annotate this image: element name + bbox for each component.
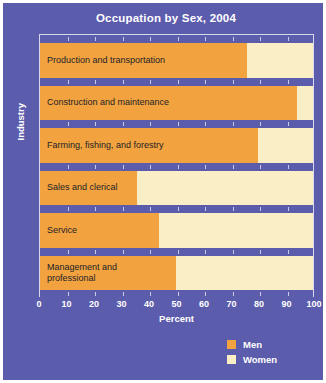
bar-segment-women[interactable]: [159, 213, 313, 248]
x-tick-label: 40: [144, 299, 154, 309]
x-tick-label: 80: [254, 299, 264, 309]
x-tick-mark: [178, 207, 179, 211]
x-tick-label: 30: [116, 299, 126, 309]
bar-segment-men[interactable]: [40, 213, 161, 248]
x-tick-mark: [178, 250, 179, 254]
row-separator-band: [40, 35, 313, 43]
x-tick-mark: [150, 165, 151, 169]
x-tick-mark: [68, 207, 69, 211]
x-tick-mark: [233, 122, 234, 126]
x-tick-mark: [233, 250, 234, 254]
bar-row[interactable]: Management and professional: [40, 256, 313, 291]
plot-area: Production and transportationConstructio…: [39, 34, 314, 297]
x-tick-label: 20: [89, 299, 99, 309]
x-tick-mark: [205, 292, 206, 296]
bar-row[interactable]: Sales and clerical: [40, 171, 313, 206]
bar-segment-women[interactable]: [176, 256, 314, 291]
x-tick-label: 10: [61, 299, 71, 309]
x-tick-mark: [288, 250, 289, 254]
chart-legend: MenWomen: [227, 337, 305, 367]
bar-segment-men[interactable]: [40, 43, 249, 78]
x-tick-mark: [260, 250, 261, 254]
x-tick-mark: [150, 37, 151, 41]
x-tick-mark: [233, 165, 234, 169]
x-tick-mark: [123, 207, 124, 211]
x-tick-mark: [288, 37, 289, 41]
x-tick-label: 0: [36, 299, 41, 309]
x-tick-mark: [68, 80, 69, 84]
x-tick-mark: [205, 122, 206, 126]
x-tick-mark: [288, 165, 289, 169]
bar-segment-women[interactable]: [297, 86, 314, 121]
x-tick-mark: [123, 165, 124, 169]
legend-item[interactable]: Women: [227, 352, 305, 367]
row-separator-band: [40, 163, 313, 171]
x-tick-mark: [150, 207, 151, 211]
x-tick-mark: [95, 122, 96, 126]
x-tick-mark: [150, 292, 151, 296]
legend-label: Men: [243, 339, 262, 350]
x-tick-mark: [205, 80, 206, 84]
x-tick-label: 100: [306, 299, 321, 309]
x-tick-mark: [123, 250, 124, 254]
x-tick-mark: [123, 37, 124, 41]
row-separator-band: [40, 290, 313, 298]
x-tick-mark: [288, 80, 289, 84]
x-tick-mark: [150, 250, 151, 254]
bar-segment-men[interactable]: [40, 171, 139, 206]
x-tick-mark: [288, 207, 289, 211]
x-tick-mark: [288, 292, 289, 296]
chart-title: Occupation by Sex, 2004: [3, 12, 326, 24]
x-tick-mark: [233, 80, 234, 84]
x-tick-mark: [205, 165, 206, 169]
x-tick-mark: [68, 122, 69, 126]
x-tick-mark: [205, 37, 206, 41]
x-tick-mark: [123, 122, 124, 126]
bar-row[interactable]: Production and transportation: [40, 43, 313, 78]
x-tick-mark: [260, 207, 261, 211]
bar-row[interactable]: Farming, fishing, and forestry: [40, 128, 313, 163]
legend-swatch-women: [227, 355, 236, 364]
x-tick-mark: [150, 80, 151, 84]
x-tick-label: 60: [199, 299, 209, 309]
x-tick-mark: [123, 292, 124, 296]
x-tick-label: 90: [281, 299, 291, 309]
x-tick-mark: [95, 37, 96, 41]
bar-row[interactable]: Construction and maintenance: [40, 86, 313, 121]
bar-segment-women[interactable]: [247, 43, 313, 78]
row-separator-band: [40, 78, 313, 86]
x-tick-mark: [288, 122, 289, 126]
y-axis-label: Industry: [15, 127, 26, 141]
x-tick-mark: [68, 292, 69, 296]
x-tick-mark: [260, 165, 261, 169]
x-tick-mark: [68, 250, 69, 254]
row-separator-band: [40, 120, 313, 128]
x-tick-mark: [260, 80, 261, 84]
bar-segment-men[interactable]: [40, 256, 178, 291]
x-tick-mark: [123, 80, 124, 84]
x-tick-mark: [95, 292, 96, 296]
x-tick-mark: [68, 165, 69, 169]
x-tick-mark: [150, 122, 151, 126]
x-tick-mark: [178, 292, 179, 296]
legend-label: Women: [243, 354, 277, 365]
bar-segment-men[interactable]: [40, 128, 260, 163]
x-axis-tick-labels: 0102030405060708090100: [39, 299, 314, 312]
x-tick-mark: [95, 80, 96, 84]
x-tick-mark: [95, 250, 96, 254]
bar-segment-women[interactable]: [137, 171, 313, 206]
x-tick-label: 70: [226, 299, 236, 309]
bar-row[interactable]: Service: [40, 213, 313, 248]
x-tick-label: 50: [171, 299, 181, 309]
x-tick-mark: [233, 292, 234, 296]
x-tick-mark: [260, 122, 261, 126]
row-separator-band: [40, 248, 313, 256]
x-tick-mark: [68, 37, 69, 41]
x-tick-mark: [95, 207, 96, 211]
x-tick-mark: [233, 207, 234, 211]
x-tick-mark: [205, 250, 206, 254]
bar-segment-women[interactable]: [258, 128, 313, 163]
x-tick-mark: [178, 122, 179, 126]
bar-segment-men[interactable]: [40, 86, 299, 121]
legend-item[interactable]: Men: [227, 337, 305, 352]
